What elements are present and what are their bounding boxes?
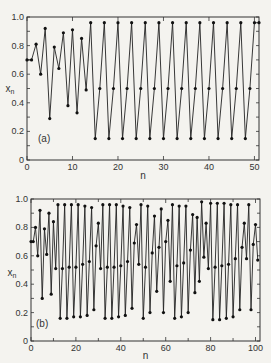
- y-tick-label: 0.6: [15, 251, 28, 261]
- data-point: [53, 45, 56, 48]
- data-point: [175, 264, 178, 267]
- data-point: [236, 203, 239, 206]
- series-line: [27, 23, 259, 139]
- data-point: [41, 297, 44, 300]
- data-point: [34, 43, 37, 46]
- data-point: [97, 222, 100, 225]
- data-point: [68, 266, 71, 269]
- data-point: [112, 87, 115, 90]
- data-point: [176, 137, 179, 140]
- x-tick-label: 20: [71, 343, 81, 353]
- data-point: [63, 203, 66, 206]
- data-point: [139, 87, 142, 90]
- data-point: [121, 205, 124, 208]
- data-point: [66, 104, 69, 107]
- data-point: [157, 246, 160, 249]
- panel-a: 00.20.40.60.81.001020304050nxn(a): [6, 12, 261, 181]
- data-point: [130, 307, 133, 310]
- data-point: [124, 314, 127, 317]
- y-tick-label: 0.4: [15, 279, 28, 289]
- data-point: [32, 240, 35, 243]
- data-point: [103, 21, 106, 24]
- data-point: [193, 291, 196, 294]
- data-point: [162, 311, 165, 314]
- data-point: [235, 87, 238, 90]
- x-axis-label: n: [143, 350, 149, 361]
- data-point: [189, 137, 192, 140]
- data-point: [71, 28, 74, 31]
- data-point: [238, 308, 241, 311]
- y-tick-label: 0.6: [11, 69, 24, 79]
- data-point: [106, 266, 109, 269]
- data-point: [180, 315, 183, 318]
- data-point: [253, 21, 256, 24]
- x-tick-label: 0: [28, 343, 33, 353]
- data-point: [81, 263, 84, 266]
- data-point: [112, 266, 115, 269]
- data-point: [44, 27, 47, 30]
- y-tick-label: 0.8: [15, 222, 28, 232]
- data-point: [85, 88, 88, 91]
- data-point: [135, 223, 138, 226]
- data-point: [211, 318, 214, 321]
- data-point: [254, 223, 257, 226]
- data-point: [200, 200, 203, 203]
- data-point: [130, 21, 133, 24]
- data-point: [80, 37, 83, 40]
- data-point: [213, 266, 216, 269]
- data-point: [90, 206, 93, 209]
- data-point: [230, 137, 233, 140]
- data-point: [65, 317, 68, 320]
- data-point: [38, 209, 41, 212]
- data-point: [89, 21, 92, 24]
- panel-label: (b): [36, 318, 48, 329]
- data-point: [162, 137, 165, 140]
- y-tick-label: 0.8: [11, 41, 24, 51]
- data-point: [79, 315, 82, 318]
- data-point: [169, 280, 172, 283]
- data-point: [166, 219, 169, 222]
- y-tick-label: 0.4: [11, 98, 24, 108]
- data-point: [61, 267, 64, 270]
- data-point: [99, 267, 102, 270]
- x-tick-label: 0: [24, 162, 29, 172]
- data-point: [121, 137, 124, 140]
- data-point: [59, 317, 62, 320]
- data-point: [247, 203, 250, 206]
- data-point: [198, 280, 201, 283]
- data-point: [98, 87, 101, 90]
- x-tick-label: 10: [67, 162, 77, 172]
- data-point: [245, 257, 248, 260]
- data-point: [72, 315, 75, 318]
- data-point: [256, 258, 259, 261]
- data-point: [234, 257, 237, 260]
- panel-label: (a): [38, 133, 50, 144]
- data-point: [25, 58, 28, 61]
- data-point: [103, 317, 106, 320]
- data-point: [115, 203, 118, 206]
- data-point: [142, 317, 145, 320]
- data-point: [212, 21, 215, 24]
- data-point: [225, 317, 228, 320]
- data-point: [209, 202, 212, 205]
- data-point: [116, 21, 119, 24]
- data-point: [191, 213, 194, 216]
- x-tick-label: 50: [249, 162, 259, 172]
- data-point: [54, 267, 57, 270]
- data-point: [125, 87, 128, 90]
- data-point: [182, 261, 185, 264]
- data-point: [108, 203, 111, 206]
- data-point: [173, 317, 176, 320]
- x-tick-label: 30: [158, 162, 168, 172]
- data-point: [202, 256, 205, 259]
- data-point: [184, 205, 187, 208]
- data-point: [216, 137, 219, 140]
- chart-canvas: 00.20.40.60.81.001020304050nxn(a)00.20.4…: [0, 0, 271, 363]
- data-point: [189, 249, 192, 252]
- data-point: [92, 308, 95, 311]
- data-point: [95, 244, 98, 247]
- data-point: [227, 263, 230, 266]
- data-point: [74, 266, 77, 269]
- data-point: [30, 58, 33, 61]
- x-tick-label: 80: [206, 343, 216, 353]
